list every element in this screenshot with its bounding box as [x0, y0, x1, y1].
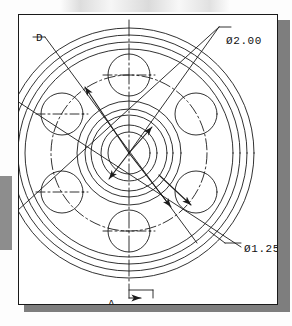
scan-artifact-top [60, 0, 230, 12]
radius-arrow-upper-right [129, 127, 152, 153]
section-view-label-a: A [108, 298, 115, 305]
section-marker-A [129, 290, 153, 298]
radius-arrow-to-hole [159, 175, 191, 205]
bolt-hole-upper-right [175, 93, 217, 135]
leader-to-dia-2-00 [129, 27, 219, 153]
dimension-leader-lines [19, 23, 241, 247]
technical-drawing-canvas [19, 15, 277, 304]
outer-rim-circles [19, 28, 254, 278]
scan-artifact-left-bar [0, 176, 12, 250]
bolt-hole-lower-right [175, 171, 217, 213]
clipped-edge-label: D [36, 32, 43, 45]
screenshot-root: Ø2.00 Ø1.25 A D [0, 0, 292, 326]
drawing-sheet: Ø2.00 Ø1.25 A D [18, 14, 278, 305]
leader-diagonal-secondary [19, 27, 219, 211]
hole-centerline-marks [36, 75, 155, 231]
dimension-label-bolt-hole-diameter: Ø1.25 [244, 243, 278, 255]
dimension-label-outer-diameter: Ø2.00 [226, 35, 262, 47]
